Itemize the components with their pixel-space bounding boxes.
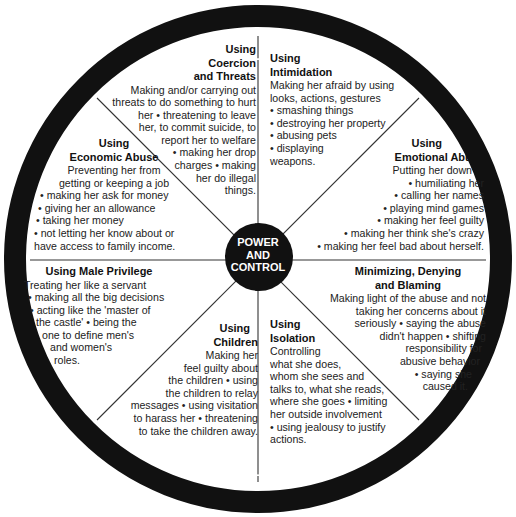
segment-economic-abuse: Using Economic Abuse Preventing her from… [34,137,194,252]
segment-emotional-abuse: Using Emotional Abuse Putting her down •… [300,137,484,252]
segment-isolation: Using Isolation Controlling what she doe… [270,318,410,446]
segment-children: Using Children Making her feel guilty ab… [108,322,258,437]
hub-label: POWER AND CONTROL [228,236,288,274]
